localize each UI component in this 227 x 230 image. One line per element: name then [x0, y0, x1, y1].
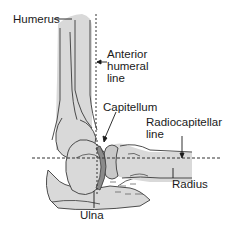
capitellum-arrow — [103, 136, 107, 142]
capitellum — [66, 140, 106, 195]
elbow-diagram — [0, 0, 227, 230]
anterior-humeral-arrow — [97, 60, 101, 64]
humerus-bone — [52, 14, 97, 159]
label-radius: Radius — [172, 178, 208, 190]
label-humerus: Humerus — [13, 13, 60, 25]
label-radiocapitellar-line-2: line — [146, 128, 164, 140]
label-radiocapitellar-line-1: Radiocapitellar — [146, 116, 222, 128]
label-anterior-humeral-line-3: line — [107, 72, 125, 84]
label-capitellum: Capitellum — [103, 101, 157, 113]
label-anterior-humeral-line-2: humeral — [107, 60, 149, 72]
capitellum-leader — [104, 112, 116, 140]
label-ulna: Ulna — [80, 209, 104, 221]
label-anterior-humeral-line-1: Anterior — [107, 48, 147, 60]
radius-bone — [103, 144, 192, 182]
